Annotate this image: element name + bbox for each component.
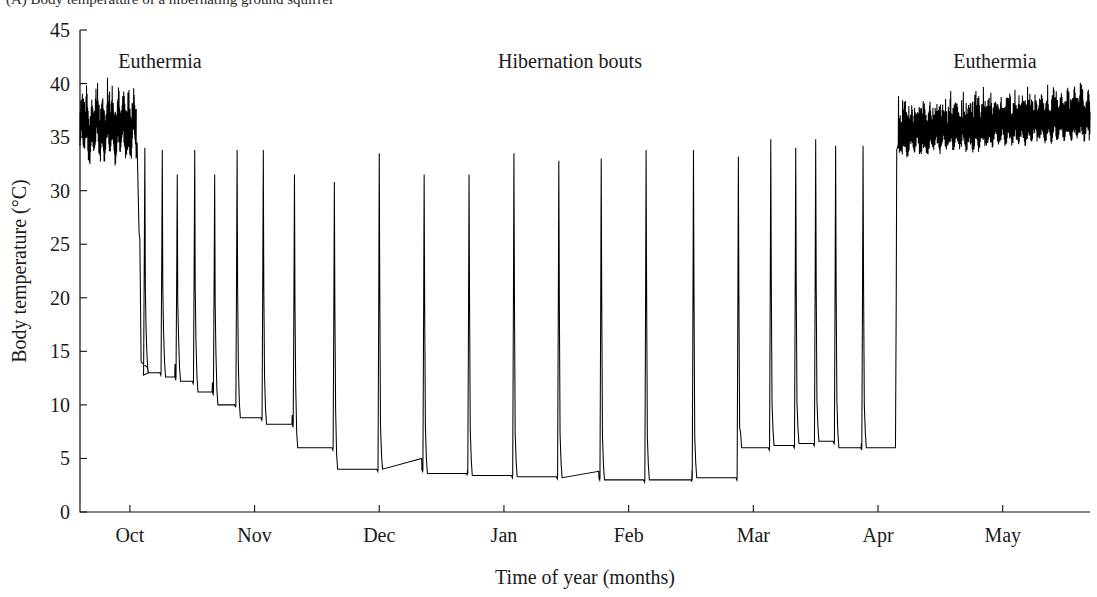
euthermia-left: Euthermia xyxy=(118,50,201,72)
y-tick-label: 15 xyxy=(50,340,70,362)
y-axis-tick-labels: 051015202530354045 xyxy=(50,19,70,523)
y-tick-label: 40 xyxy=(50,73,70,95)
y-tick-label: 45 xyxy=(50,19,70,41)
y-tick-label: 20 xyxy=(50,287,70,309)
x-tick-label: Jan xyxy=(491,524,518,546)
y-tick-label: 25 xyxy=(50,233,70,255)
y-tick-label: 0 xyxy=(60,501,70,523)
x-tick-label: Nov xyxy=(237,524,271,546)
hibernation-body-temperature-figure: (A) Body temperature of a hibernating gr… xyxy=(0,0,1097,597)
body-temperature-trace xyxy=(80,78,1090,482)
y-tick-label: 30 xyxy=(50,180,70,202)
x-tick-label: Feb xyxy=(614,524,644,546)
x-tick-label: Dec xyxy=(363,524,395,546)
x-tick-label: May xyxy=(984,524,1021,547)
x-tick-label: Mar xyxy=(737,524,771,546)
plot-annotations: EuthermiaHibernation boutsEuthermia xyxy=(118,50,1036,72)
x-tick-label: Oct xyxy=(115,524,144,546)
x-axis-title: Time of year (months) xyxy=(495,566,675,589)
y-tick-label: 10 xyxy=(50,394,70,416)
y-tick-label: 5 xyxy=(60,447,70,469)
hibernation-bouts: Hibernation bouts xyxy=(498,50,642,72)
x-tick-label: Apr xyxy=(862,524,893,547)
x-axis-tick-labels: OctNovDecJanFebMarAprMay xyxy=(115,524,1021,547)
axes xyxy=(80,30,1090,512)
tick-marks xyxy=(80,30,1003,512)
y-axis-title: Body temperature (°C) xyxy=(8,179,31,363)
euthermia-right: Euthermia xyxy=(953,50,1036,72)
chart-canvas: 051015202530354045 OctNovDecJanFebMarApr… xyxy=(0,0,1097,597)
y-tick-label: 35 xyxy=(50,126,70,148)
